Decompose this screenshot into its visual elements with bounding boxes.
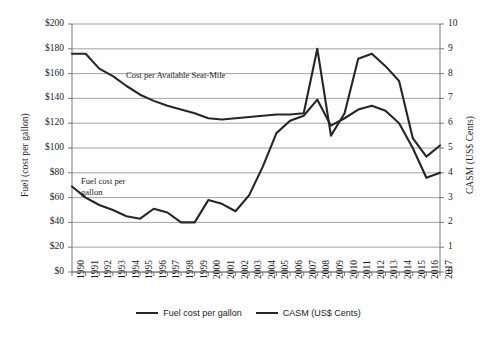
x-axis-tick: 2012	[376, 260, 386, 279]
y-axis-right-tick: 1	[448, 241, 472, 251]
y-axis-left-tick: $140	[22, 92, 64, 102]
x-axis-tick: 2017	[444, 260, 454, 279]
y-axis-right-tick: 3	[448, 192, 472, 202]
x-axis-tick: 2004	[267, 260, 277, 279]
y-axis-left-tick: $0	[22, 266, 64, 276]
x-axis-tick: 2011	[362, 260, 372, 279]
y-axis-left-tick: $120	[22, 117, 64, 127]
x-axis-tick: 1992	[103, 260, 113, 279]
x-axis-tick: 1995	[144, 260, 154, 279]
x-axis-tick: 1997	[171, 260, 181, 279]
x-axis-tick: 1994	[131, 260, 141, 279]
y-axis-right-tick: 2	[448, 216, 472, 226]
y-axis-right-tick: 9	[448, 43, 472, 53]
legend-label: CASM (US$ Cents)	[283, 308, 361, 318]
y-axis-left-tick: $20	[22, 241, 64, 251]
series-line-fuel-cost	[72, 100, 440, 223]
x-axis-tick: 2015	[417, 260, 427, 279]
x-axis-tick: 2005	[280, 260, 290, 279]
chart-container: Fuel (cost per gallon) CASM (US$ Cents) …	[0, 0, 497, 340]
y-axis-left-tick: $60	[22, 192, 64, 202]
y-axis-right-tick: 8	[448, 68, 472, 78]
series-line-casm	[72, 49, 440, 157]
x-axis-tick: 2007	[308, 260, 318, 279]
x-axis-tick: 2003	[253, 260, 263, 279]
y-axis-left-tick: $160	[22, 68, 64, 78]
x-axis-tick: 1998	[185, 260, 195, 279]
x-axis-tick: 1999	[199, 260, 209, 279]
y-axis-right-tick: 6	[448, 117, 472, 127]
y-axis-left-tick: $80	[22, 167, 64, 177]
chart-annotation-fuel: Fuel cost per gallon	[81, 176, 125, 198]
x-axis-tick: 2013	[389, 260, 399, 279]
chart-annotation-casm: Cost per Available Seat-Mile	[126, 70, 225, 81]
legend-line-swatch	[136, 312, 158, 314]
y-axis-right-tick: 4	[448, 167, 472, 177]
legend-item-fuel-cost[interactable]: Fuel cost per gallon	[136, 308, 242, 318]
x-axis-tick: 1991	[90, 260, 100, 279]
plot-area	[0, 0, 497, 340]
x-axis-tick: 1996	[158, 260, 168, 279]
y-axis-left-tick: $200	[22, 18, 64, 28]
y-axis-right-title: CASM (US$ Cents)	[465, 85, 475, 225]
y-axis-right-tick: 10	[448, 18, 472, 28]
x-axis-tick: 2014	[403, 260, 413, 279]
x-axis-tick: 1990	[76, 260, 86, 279]
legend-line-swatch	[256, 312, 278, 314]
x-axis-tick: 2006	[294, 260, 304, 279]
x-axis-tick: 2009	[335, 260, 345, 279]
legend-item-casm[interactable]: CASM (US$ Cents)	[256, 308, 361, 318]
x-axis-tick: 2000	[212, 260, 222, 279]
y-axis-left-tick: $180	[22, 43, 64, 53]
x-axis-tick: 2016	[430, 260, 440, 279]
x-axis-tick: 2001	[226, 260, 236, 279]
x-axis-tick: 1993	[117, 260, 127, 279]
x-axis-tick: 2010	[349, 260, 359, 279]
x-axis-tick: 2002	[240, 260, 250, 279]
y-axis-left-title: Fuel (cost per gallon)	[20, 85, 30, 225]
legend-label: Fuel cost per gallon	[163, 308, 242, 318]
y-axis-right-tick: 7	[448, 92, 472, 102]
y-axis-left-tick: $100	[22, 142, 64, 152]
y-axis-right-tick: 5	[448, 142, 472, 152]
x-axis-tick: 2008	[321, 260, 331, 279]
chart-legend: Fuel cost per gallonCASM (US$ Cents)	[0, 308, 497, 318]
y-axis-left-tick: $40	[22, 216, 64, 226]
